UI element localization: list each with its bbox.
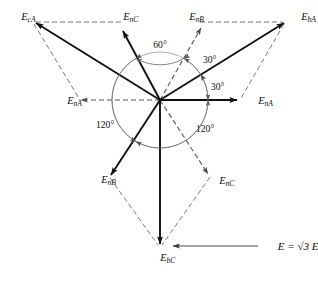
caption-formula: E = √3 En [264, 240, 318, 255]
angle-label-30-upper: 30° [203, 54, 217, 65]
construction-line-enb-ebc [110, 178, 158, 245]
angle-label-30-lower: 30° [211, 81, 225, 92]
label-enb-bottom: EnB [88, 174, 124, 187]
label-enc-bottom: EnC [206, 175, 242, 188]
label-ebc: EbC [147, 252, 183, 265]
label-eca: EcA [8, 11, 43, 24]
label-enc-top: EnC [110, 11, 146, 24]
phasor-enb [111, 100, 160, 175]
angle-arc-60 [136, 58, 184, 64]
label-eba: EbA [288, 11, 318, 24]
label-ena-right: EnA [245, 95, 281, 108]
angle-label-120-right: 120° [196, 123, 214, 134]
phasor-diagram-canvas: 60° 30° 30° 120° 120° EcA EnC EnB EbA En… [0, 0, 318, 283]
angle-label-120-left: 120° [96, 119, 114, 130]
label-ena-left: EnA [54, 95, 90, 108]
angle-arc-30-upper [184, 58, 201, 74]
phasor-enc-reversed [160, 100, 208, 174]
angle-label-60: 60° [153, 39, 167, 50]
phasor-diagram-figure: 60° 30° 30° 120° 120° EcA EnC EnB EbA En… [0, 0, 318, 283]
label-enb-top: EnB [176, 11, 212, 24]
angle-arc-30-lower [201, 75, 208, 100]
construction-line-eba-ena [240, 24, 284, 100]
construction-line-enc-ebc [162, 177, 210, 245]
